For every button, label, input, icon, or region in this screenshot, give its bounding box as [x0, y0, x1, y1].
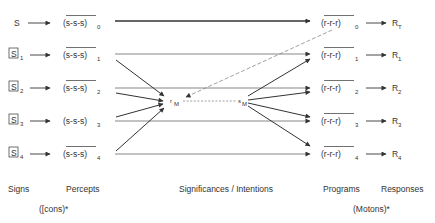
svg-text:M: M [174, 101, 179, 107]
label-significances: Significances / Intentions [179, 184, 273, 194]
svg-text:(r-r-r): (r-r-r) [321, 83, 341, 93]
svg-text:(r-r-r): (r-r-r) [321, 50, 341, 60]
percept-3: (s-s-s) 3 [63, 116, 101, 128]
svg-text:1: 1 [97, 56, 101, 62]
row-0: S (s-s-s) 0 (r-r-r) 0 R T [14, 16, 402, 31]
svg-text:4: 4 [355, 155, 359, 161]
footnote-icons: ([cons)* [39, 204, 69, 214]
svg-text:4: 4 [20, 154, 24, 160]
svg-text:2: 2 [398, 89, 402, 95]
percept-1-to-rm-arrow [116, 60, 164, 96]
label-signs: Signs [8, 184, 29, 194]
row-1: S 1 (s-s-s) 1 (r-r-r) 1 R 1 [9, 48, 402, 63]
svg-text:3: 3 [97, 122, 101, 128]
percept-1: (s-s-s) 1 [63, 48, 101, 63]
sm-to-program-3-arrow [248, 103, 310, 117]
diverging-arrows [248, 59, 310, 146]
program-0: (r-r-r) 0 [321, 16, 359, 31]
svg-text:s: s [238, 98, 241, 104]
column-labels: Signs Percepts Significances / Intention… [8, 184, 424, 194]
sm-to-program-1-arrow [248, 59, 310, 96]
svg-text:1: 1 [398, 56, 402, 62]
sign-3: S [11, 115, 17, 125]
percept-2: (s-s-s) 2 [63, 81, 101, 96]
svg-text:(s-s-s): (s-s-s) [63, 149, 87, 159]
svg-text:T: T [398, 24, 402, 30]
svg-text:2: 2 [97, 89, 101, 95]
mediator-s: s M [238, 98, 247, 107]
svg-text:(r-r-r): (r-r-r) [321, 18, 341, 28]
feedback-dashed-arrow [186, 30, 332, 97]
sign-2: S [11, 82, 17, 92]
percept-2-to-rm-arrow [116, 93, 163, 101]
program-2: (r-r-r) 2 [321, 81, 359, 96]
svg-text:3: 3 [355, 122, 359, 128]
sm-to-program-2-arrow [248, 92, 310, 100]
percept-4-to-rm-arrow [116, 108, 164, 151]
svg-text:M: M [242, 101, 247, 107]
direct-arrows [115, 21, 310, 154]
converging-arrows [116, 60, 164, 151]
sign-1: S [11, 49, 17, 59]
percept-4: (s-s-s) 4 [63, 147, 101, 162]
svg-text:2: 2 [20, 88, 24, 94]
svg-text:(r-r-r): (r-r-r) [321, 116, 341, 126]
sign-4: S [11, 148, 17, 158]
program-1: (r-r-r) 1 [321, 48, 359, 63]
footnotes: ([cons)* (Motons)* [39, 204, 391, 214]
svg-text:1: 1 [355, 56, 359, 62]
svg-text:0: 0 [97, 24, 101, 30]
sign-0: S [14, 18, 20, 28]
svg-text:r: r [170, 98, 172, 104]
sm-to-program-4-arrow [248, 106, 310, 146]
mediator-r: r M [170, 98, 179, 107]
label-programs: Programs [323, 184, 360, 194]
semantic-mediation-diagram: S (s-s-s) 0 (r-r-r) 0 R T S 1 (s-s-s) 1 … [0, 0, 435, 223]
svg-text:0: 0 [355, 24, 359, 30]
label-responses: Responses [381, 184, 424, 194]
svg-text:(s-s-s): (s-s-s) [63, 116, 87, 126]
svg-text:(s-s-s): (s-s-s) [63, 50, 87, 60]
svg-text:2: 2 [355, 89, 359, 95]
program-4: (r-r-r) 4 [321, 147, 359, 162]
percept-0: (s-s-s) 0 [63, 16, 101, 31]
program-3: (r-r-r) 3 [321, 114, 359, 129]
svg-text:3: 3 [20, 121, 24, 127]
svg-text:3: 3 [398, 122, 402, 128]
footnote-motons: (Motons)* [353, 204, 391, 214]
svg-text:(s-s-s): (s-s-s) [63, 18, 87, 28]
svg-text:4: 4 [398, 155, 402, 161]
svg-text:(r-r-r): (r-r-r) [321, 149, 341, 159]
label-percepts: Percepts [66, 184, 100, 194]
svg-text:1: 1 [20, 55, 24, 61]
svg-text:(s-s-s): (s-s-s) [63, 83, 87, 93]
svg-text:4: 4 [97, 155, 101, 161]
